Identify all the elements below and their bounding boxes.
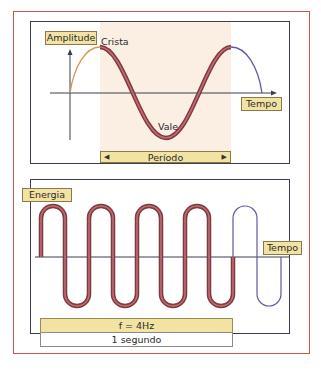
period-label: Período [148,152,183,163]
trough-label: Vale [158,122,178,132]
top-time-label: Tempo [241,97,282,111]
arrow-left-icon: ◀ [104,153,109,161]
amplitude-label: Amplitude [45,31,97,45]
arrow-right-icon: ▶ [222,153,227,161]
energy-label: Energia [22,188,72,202]
bottom-panel [30,179,290,334]
period-bar: ◀ Período ▶ [100,151,231,163]
frequency-bar: f = 4Hz [40,318,233,333]
duration-bar: 1 segundo [40,332,233,347]
bottom-time-label: Tempo [263,241,302,255]
crest-label: Crista [101,37,129,47]
